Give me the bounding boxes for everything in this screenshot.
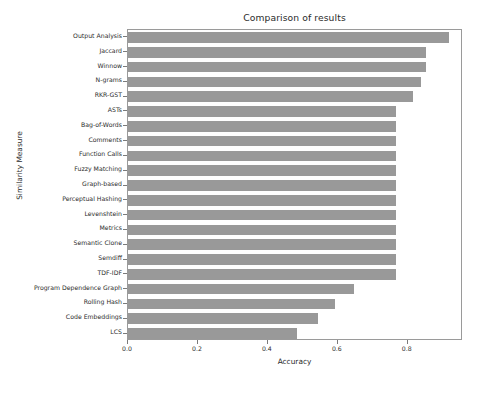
y-axis-tick-labels: Output AnalysisJaccardWinnowN-gramsRKR-G… [0,29,122,340]
y-tick-mark [123,110,127,111]
bar-row [128,210,461,221]
y-tick-label: N-grams [0,77,122,83]
bar-row [128,47,461,58]
bar [128,136,396,147]
x-tick-label: 0.4 [252,345,282,352]
bar [128,32,449,43]
bar-row [128,106,461,117]
plot-area [128,30,461,339]
bar-row [128,328,461,339]
y-tick-label: LCS [0,329,122,335]
y-tick-mark [123,199,127,200]
bar [128,299,335,310]
bar-row [128,151,461,162]
y-tick-label: Rolling Hash [0,299,122,305]
y-tick-mark [123,318,127,319]
x-tick-label: 0.6 [322,345,352,352]
x-tick-mark [267,340,268,344]
bar-row [128,299,461,310]
bar [128,121,396,132]
bar [128,151,396,162]
y-tick-label: Comments [0,137,122,143]
y-tick-label: Function Calls [0,151,122,157]
bar [128,210,396,221]
y-tick-label: RKR-GST [0,92,122,98]
y-tick-label: Graph-based [0,181,122,187]
y-tick-mark [123,125,127,126]
x-tick-mark [127,340,128,344]
bar [128,91,413,102]
bar-row [128,77,461,88]
y-tick-label: Metrics [0,225,122,231]
bar-row [128,284,461,295]
y-tick-mark [123,51,127,52]
y-tick-label: Fuzzy Matching [0,166,122,172]
bar [128,106,396,117]
y-tick-mark [123,333,127,334]
x-tick-mark [197,340,198,344]
y-tick-mark [123,170,127,171]
y-tick-label: ASTs [0,107,122,113]
y-tick-mark [123,81,127,82]
x-tick-mark [337,340,338,344]
y-tick-mark [123,259,127,260]
y-tick-label: Program Dependence Graph [0,285,122,291]
chart-title: Comparison of results [127,12,462,23]
y-tick-label: Output Analysis [0,33,122,39]
bar [128,239,396,250]
bar-row [128,313,461,324]
y-tick-label: Winnow [0,63,122,69]
y-tick-mark [123,244,127,245]
y-tick-mark [123,66,127,67]
bar-row [128,195,461,206]
bar-row [128,269,461,280]
x-tick-label: 0.2 [182,345,212,352]
bar-row [128,136,461,147]
bar [128,62,426,73]
bar [128,328,297,339]
bar [128,165,396,176]
y-tick-mark [123,288,127,289]
y-tick-label: Semantic Clone [0,240,122,246]
y-tick-mark [123,214,127,215]
bar [128,77,421,88]
bar [128,180,396,191]
x-tick-label: 0.0 [112,345,142,352]
y-tick-mark [123,273,127,274]
bar-row [128,62,461,73]
bar [128,254,396,265]
y-tick-mark [123,303,127,304]
y-tick-label: Levenshtein [0,211,122,217]
y-tick-mark [123,140,127,141]
bar-row [128,121,461,132]
bar [128,47,426,58]
y-tick-label: Semdiff [0,255,122,261]
x-axis-label: Accuracy [127,357,462,366]
bar [128,225,396,236]
bar [128,195,396,206]
bar-row [128,165,461,176]
y-tick-mark [123,96,127,97]
matplotlib-figure: Comparison of results Similarity Measure… [0,0,485,394]
x-tick-label: 0.8 [392,345,422,352]
plot-frame [127,29,462,340]
x-tick-mark [407,340,408,344]
bar-row [128,180,461,191]
y-tick-label: Bag-of-Words [0,122,122,128]
bar-row [128,225,461,236]
y-tick-label: TDF-IDF [0,270,122,276]
y-tick-mark [123,229,127,230]
y-tick-label: Jaccard [0,48,122,54]
bar-row [128,32,461,43]
y-tick-mark [123,36,127,37]
y-tick-mark [123,155,127,156]
bar [128,269,396,280]
bar-row [128,239,461,250]
bar [128,284,354,295]
y-tick-label: Perceptual Hashing [0,196,122,202]
y-tick-mark [123,185,127,186]
bar-row [128,91,461,102]
bar [128,313,318,324]
bar-row [128,254,461,265]
y-tick-label: Code Embeddings [0,314,122,320]
